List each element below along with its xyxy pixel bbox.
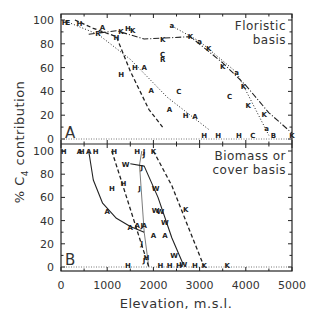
data-point-marker: W <box>122 161 130 169</box>
data-point-marker: W <box>161 219 169 227</box>
panel-b-biomass: 020406080100HAHAHHHJJKWJHHJWAWWKWAAJAAAJ… <box>33 145 292 274</box>
x-axis-title: Elevation, m.s.l. <box>120 296 233 311</box>
data-point-marker: H <box>215 132 221 140</box>
y-tick-label: 20 <box>40 109 54 122</box>
data-point-marker: J <box>137 185 141 193</box>
data-point-marker: A <box>86 148 92 156</box>
y-tick-label: 80 <box>40 38 54 51</box>
data-point-marker: W <box>156 208 164 216</box>
data-point-marker: K <box>245 102 251 110</box>
panel-a-floristic: 020406080100HEHARHKHKKKCRHAHACAHAaaKKaKC… <box>33 14 295 146</box>
data-point-marker: K <box>118 28 124 36</box>
data-point-marker: A <box>100 24 106 32</box>
y-tick-label: 80 <box>40 168 54 181</box>
data-point-marker: C <box>227 93 232 101</box>
panel-letter: A <box>65 124 76 142</box>
data-point-marker: K <box>225 262 231 270</box>
y-tick-label: 100 <box>33 14 54 27</box>
data-point-marker: A <box>192 113 198 121</box>
data-point-marker: H <box>79 148 85 156</box>
data-point-marker: H <box>201 132 207 140</box>
data-point-marker: A <box>104 208 110 216</box>
data-point-marker: K <box>183 206 189 214</box>
data-point-marker: A <box>141 222 147 230</box>
data-point-marker: R <box>160 56 166 64</box>
data-point-marker: A <box>167 106 173 114</box>
panel-note: Biomass or <box>214 149 286 163</box>
data-point-marker: H <box>61 148 67 156</box>
figure: 020406080100HEHARHKHKKKCRHAHACAHAaaKKaKC… <box>0 0 315 318</box>
data-point-marker: H <box>144 254 150 262</box>
data-point-marker: a <box>197 38 202 46</box>
data-point-marker: C <box>176 88 181 96</box>
y-tick-label: 40 <box>40 215 54 228</box>
data-point-marker: K <box>289 132 295 140</box>
y-tick-label: 60 <box>40 62 54 75</box>
data-point-marker: H <box>118 71 124 79</box>
x-tick-label: 1000 <box>93 279 121 292</box>
x-tick-label: 5000 <box>278 279 306 292</box>
series-line <box>112 151 149 267</box>
panel-note: Floristic <box>235 19 286 33</box>
data-point-marker: a <box>234 69 239 77</box>
data-point-marker: E <box>66 19 71 27</box>
data-point-marker: K <box>241 83 247 91</box>
data-point-marker: A <box>162 232 168 240</box>
data-point-marker: K <box>160 36 166 44</box>
data-point-marker: H <box>111 148 117 156</box>
panel-letter: B <box>65 251 75 269</box>
data-point-marker: H <box>183 112 189 120</box>
data-point-marker: H <box>77 20 83 28</box>
data-point-marker: H <box>157 262 163 270</box>
data-point-marker: J <box>140 240 144 248</box>
data-point-marker: K <box>220 63 226 71</box>
data-point-marker: a <box>170 22 175 30</box>
data-point-marker: A <box>148 87 154 95</box>
x-tick-label: 0 <box>58 279 65 292</box>
panel-note: cover basis <box>213 163 286 177</box>
x-tick-label: 3000 <box>186 279 214 292</box>
data-point-marker: K <box>130 27 136 35</box>
data-point-marker: W <box>152 185 160 193</box>
y-tick-label: 40 <box>40 85 54 98</box>
data-point-marker: W <box>180 261 188 269</box>
data-point-marker: K <box>151 148 157 156</box>
data-point-marker: A <box>141 64 147 72</box>
y-axis-title: % C4 contribution <box>12 81 30 204</box>
y-tick-label: 100 <box>33 145 54 158</box>
data-point-marker: H <box>167 262 173 270</box>
data-point-marker: B <box>271 132 276 140</box>
x-tick-label: 2000 <box>139 279 167 292</box>
data-point-marker: H <box>93 148 99 156</box>
y-tick-label: 20 <box>40 238 54 251</box>
data-point-marker: H <box>236 132 242 140</box>
data-point-marker: W <box>170 252 178 260</box>
data-point-marker: A <box>128 224 134 232</box>
data-point-marker: K <box>202 262 208 270</box>
y-axis-title-suffix: contribution <box>12 81 27 170</box>
data-point-marker: K <box>188 33 194 41</box>
data-point-marker: H <box>134 148 140 156</box>
panel-note: basis <box>253 33 286 47</box>
data-point-marker: H <box>109 185 115 193</box>
data-point-marker: J <box>142 151 146 159</box>
y-tick-label: 0 <box>47 261 54 274</box>
y-tick-label: 60 <box>40 191 54 204</box>
data-point-marker: J <box>140 164 144 172</box>
data-point-marker: a <box>264 125 269 133</box>
data-point-marker: K <box>262 111 268 119</box>
data-point-marker: A <box>151 232 157 240</box>
data-point-marker: H <box>120 180 126 188</box>
data-point-marker: R <box>95 30 101 38</box>
series-line <box>89 151 145 232</box>
x-tick-label: 4000 <box>232 279 260 292</box>
data-point-marker: H <box>192 262 198 270</box>
data-point-marker: C <box>250 132 255 140</box>
data-point-marker: K <box>206 45 212 53</box>
y-axis-title-prefix: % C <box>12 176 27 203</box>
data-point-marker: H <box>132 64 138 72</box>
